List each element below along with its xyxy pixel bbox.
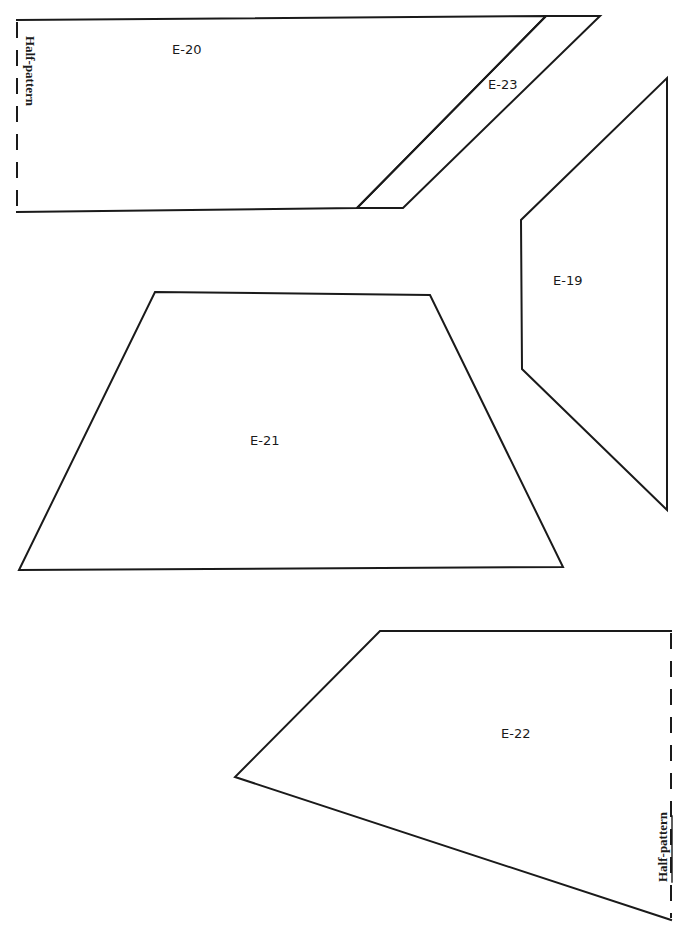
piece-e23-label: E-23: [488, 77, 517, 92]
piece-e19: E-19: [521, 78, 667, 510]
piece-e20-outline: [17, 16, 546, 212]
piece-e20: E-20 Half-pattern: [17, 16, 546, 212]
piece-e22-half-pattern-note: Half-pattern: [655, 811, 670, 882]
pattern-sheet: E-20 Half-pattern E-23 E-19 E-21 E-22 Ha…: [0, 0, 683, 937]
piece-e19-outline: [521, 78, 667, 510]
piece-e19-label: E-19: [553, 273, 582, 288]
piece-e22: E-22 Half-pattern: [235, 631, 672, 920]
piece-e21: E-21: [19, 292, 563, 570]
piece-e20-half-pattern-note: Half-pattern: [23, 36, 38, 107]
piece-e22-label: E-22: [501, 726, 530, 741]
piece-e22-outline: [235, 631, 671, 920]
piece-e21-outline: [19, 292, 563, 570]
piece-e21-label: E-21: [250, 433, 279, 448]
piece-e20-label: E-20: [172, 42, 201, 57]
